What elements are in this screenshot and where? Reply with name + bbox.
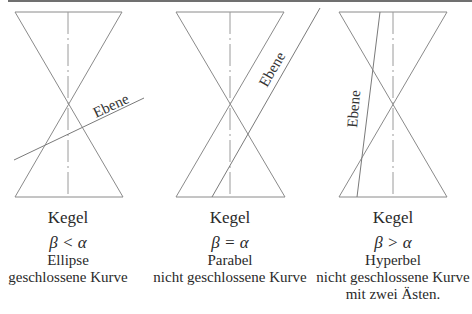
curve-description: nicht geschlossene Kurve [150,269,310,286]
curve-description-line-2: mit zwei Ästen. [313,286,472,303]
cutting-plane [212,8,320,197]
curve-type: Ellipse [0,252,148,269]
curve-description: geschlossene Kurve [0,269,148,286]
caption-parabola: Kegel β = α Parabel nicht geschlossene K… [150,208,310,286]
plane-label: Ebene [91,90,132,120]
caption-ellipse: Kegel β < α Ellipse geschlossene Kurve [0,208,148,286]
caption-hyperbola: Kegel β > α Hyperbel nicht geschlossene … [313,208,472,303]
cone-ellipse: Ebene [14,12,144,197]
curve-type: Hyperbel [313,252,472,269]
angle-condition: β > α [313,234,472,252]
angle-condition: β < α [0,234,148,252]
cone-label: Kegel [0,208,148,228]
cone-hyperbola: Ebene [339,12,447,197]
cone-label: Kegel [150,208,310,228]
plane-label: Ebene [256,49,289,90]
cone-label: Kegel [313,208,472,228]
plane-label: Ebene [344,89,363,128]
cone-parabola: Ebene [176,8,320,197]
curve-description: nicht geschlossene Kurve [313,269,472,286]
curve-type: Parabel [150,252,310,269]
angle-condition: β = α [150,234,310,252]
